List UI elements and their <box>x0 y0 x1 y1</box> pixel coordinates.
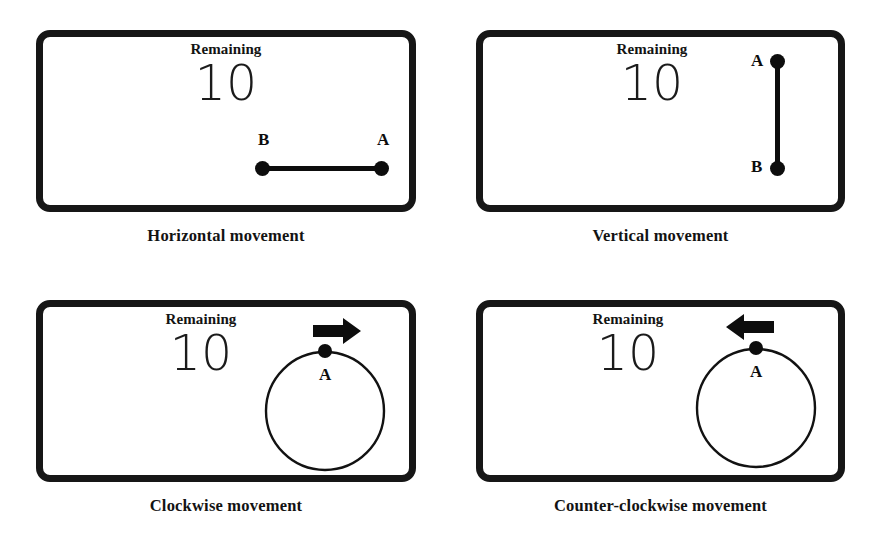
panel-caption: Vertical movement <box>476 226 845 246</box>
panel-caption: Counter-clockwise movement <box>476 496 845 516</box>
path-segment-horizontal <box>262 166 382 171</box>
panel-counter-clockwise: Remaining 10 A Counter-clockwise movemen… <box>476 300 845 530</box>
panel-vertical: Remaining 10 A B Vertical movement <box>476 30 845 260</box>
arrow-left-icon <box>724 312 774 342</box>
point-marker-b <box>770 161 785 176</box>
point-marker-b <box>255 161 270 176</box>
point-label-b: B <box>751 158 762 175</box>
panel-clockwise: Remaining 10 A Clockwise movement <box>36 300 416 530</box>
figure-canvas: Remaining 10 B A Horizontal movement Rem… <box>0 0 878 542</box>
point-marker-a <box>770 54 785 69</box>
remaining-value: 10 <box>548 328 708 380</box>
remaining-value: 10 <box>121 328 281 380</box>
point-marker-a <box>374 161 389 176</box>
remaining-counter: Remaining 10 <box>146 41 306 110</box>
panel-horizontal: Remaining 10 B A Horizontal movement <box>36 30 416 260</box>
remaining-counter: Remaining 10 <box>548 311 708 380</box>
point-marker-a <box>749 341 763 355</box>
panel-caption: Horizontal movement <box>36 226 416 246</box>
point-label-a: A <box>750 363 762 380</box>
point-label-b: B <box>258 131 269 148</box>
point-label-a: A <box>319 366 331 383</box>
remaining-counter: Remaining 10 <box>121 311 281 380</box>
panel-caption: Clockwise movement <box>36 496 416 516</box>
point-marker-a <box>318 344 332 358</box>
remaining-value: 10 <box>572 58 732 110</box>
path-segment-vertical <box>775 65 780 173</box>
remaining-value: 10 <box>146 58 306 110</box>
point-label-a: A <box>751 52 763 69</box>
point-label-a: A <box>377 131 389 148</box>
remaining-counter: Remaining 10 <box>572 41 732 110</box>
arrow-right-icon <box>313 316 363 346</box>
